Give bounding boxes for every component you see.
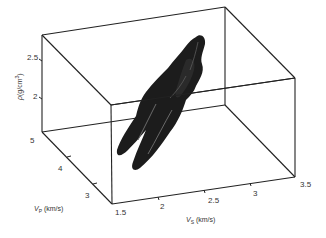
x-tick-3-5: 3.5: [300, 180, 312, 189]
z-tick-2: 2: [33, 92, 38, 101]
x-tick-2: 2: [160, 202, 165, 211]
y-tick-3: 3: [85, 191, 90, 200]
y-tick-4: 4: [58, 164, 63, 173]
y-tick-5: 5: [30, 136, 35, 145]
x-axis-label: VS (km/s): [186, 216, 215, 225]
z-axis-label: ρ(g/cm3): [14, 73, 24, 101]
y-axis-ticks: [67, 156, 97, 184]
y-axis-label: VP (km/s): [34, 205, 63, 214]
x-tick-1-5: 1.5: [115, 208, 127, 217]
axis-lines: [42, 78, 295, 204]
x-tick-3: 3: [253, 189, 258, 198]
z-tick-2-5: 2.5: [27, 53, 39, 62]
3d-chart: 2.5 2 ρ(g/cm3) 5 4 3 VP (km/s) 1.5 2 2.5…: [0, 0, 326, 238]
x-tick-2-5: 2.5: [208, 196, 220, 205]
